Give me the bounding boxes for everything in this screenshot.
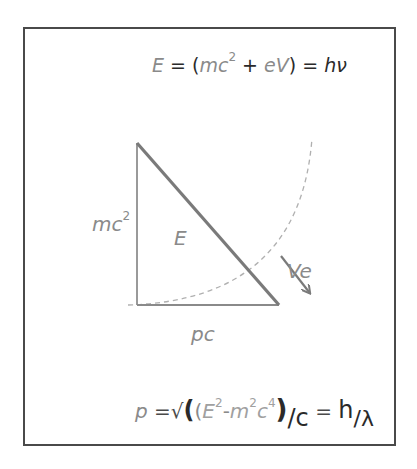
eq-E2: E: [202, 399, 215, 423]
label-E: E: [174, 228, 187, 248]
label-pc: pc: [191, 324, 215, 344]
label-mc2-sup: 2: [122, 209, 130, 223]
eq-big-open: (: [184, 396, 195, 424]
eq-E-sup: 2: [215, 396, 223, 410]
top-equation: E = (mc2 + eV) = hν: [152, 56, 347, 75]
eq-c: c: [257, 399, 268, 423]
eq-nu: ν: [336, 54, 347, 76]
eq-eV: eV: [264, 54, 289, 76]
label-mc2-base: mc: [92, 212, 122, 236]
eq-m-sup: 2: [249, 396, 257, 410]
eq-c-sup: 4: [268, 396, 276, 410]
eq-sup2: 2: [228, 50, 236, 64]
eq-minus: -: [223, 399, 230, 423]
eq-slash-lambda: /λ: [353, 406, 373, 431]
eq-sqrt: =√: [148, 399, 184, 423]
eq-h2: h: [338, 396, 353, 424]
eq-slash-c: /c: [288, 404, 309, 432]
hypotenuse-E: [137, 143, 279, 305]
bottom-equation: p =√((E2-m2c4)/c = h/λ: [135, 396, 374, 422]
eq-p: p: [135, 399, 148, 423]
label-mc2: mc2: [92, 214, 130, 234]
eq-big-close: ): [276, 394, 288, 424]
eq-plus: +: [236, 54, 264, 76]
eq-equals: =: [309, 399, 338, 423]
eq-open: = (: [164, 54, 199, 76]
eq-E: E: [152, 54, 164, 76]
label-Ve: Ve: [287, 261, 312, 281]
eq-m: m: [230, 399, 249, 423]
eq-close: ) =: [289, 54, 324, 76]
eq-mc: mc: [199, 54, 228, 76]
eq-h: h: [324, 54, 336, 76]
